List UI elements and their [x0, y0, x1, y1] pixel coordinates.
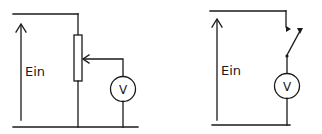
potentiometer: [74, 35, 82, 81]
left-circuit: V Ein: [13, 14, 138, 127]
potentiometer-wiper: [84, 59, 123, 77]
right-circuit: V Ein: [210, 11, 303, 125]
circuit-diagrams: V Ein V Ein: [0, 0, 322, 134]
left-voltmeter-label: V: [119, 83, 128, 97]
left-input-label: Ein: [25, 64, 45, 79]
right-input-label: Ein: [221, 63, 241, 78]
right-voltmeter-label: V: [283, 80, 292, 94]
switch-blade: [287, 31, 300, 55]
switch-fixed-contact: [286, 26, 291, 32]
